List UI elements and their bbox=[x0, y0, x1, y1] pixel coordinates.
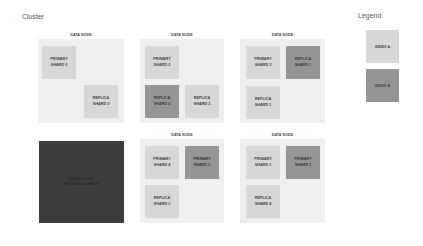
node-label: DATA NODE bbox=[240, 33, 325, 37]
node-label: DATA NODE bbox=[38, 33, 124, 37]
legend-index-b: INDEX B bbox=[366, 69, 399, 102]
data-node-3: PRIMARY SHARD 3 REPLICA SHARD 1 REPLICA … bbox=[240, 39, 325, 123]
down-node: NODE DOWN NETWORK ERROR bbox=[39, 141, 124, 223]
shard: REPLICA SHARD 3 bbox=[185, 85, 219, 118]
shard: PRIMARY SHARD 3 bbox=[246, 46, 280, 79]
cluster-title: Cluster bbox=[22, 13, 44, 20]
shard: PRIMARY SHARD 4 bbox=[145, 146, 179, 179]
data-node-2: PRIMARY SHARD 2 REPLICA SHARD 0 REPLICA … bbox=[140, 39, 224, 123]
legend-index-a: INDEX A bbox=[366, 30, 399, 63]
shard: PRIMARY SHARD 2 bbox=[145, 46, 179, 79]
node-label: DATA NODE bbox=[240, 133, 325, 137]
legend-title: Legend bbox=[358, 12, 381, 19]
shard: REPLICA SHARD 1 bbox=[286, 46, 320, 79]
data-node-5: PRIMARY SHARD 4 PRIMARY SHARD 0 REPLICA … bbox=[140, 139, 224, 223]
data-node-1: PRIMARY SHARD 0 REPLICA SHARD 2 bbox=[38, 39, 124, 123]
shard: REPLICA SHARD 1 bbox=[246, 86, 280, 119]
shard: PRIMARY SHARD 0 bbox=[185, 146, 219, 179]
shard: REPLICA SHARD 2 bbox=[84, 85, 118, 118]
shard: PRIMARY SHARD 1 bbox=[246, 146, 280, 179]
shard: REPLICA SHARD 0 bbox=[145, 85, 179, 118]
shard: PRIMARY SHARD 1 bbox=[286, 146, 320, 179]
node-label: DATA NODE bbox=[140, 133, 224, 137]
data-node-6: PRIMARY SHARD 1 PRIMARY SHARD 1 REPLICA … bbox=[240, 139, 325, 223]
node-label: DATA NODE bbox=[140, 33, 224, 37]
shard: REPLICA SHARD 4 bbox=[246, 185, 280, 218]
shard: REPLICA SHARD 0 bbox=[145, 185, 179, 218]
shard: PRIMARY SHARD 0 bbox=[42, 46, 76, 79]
